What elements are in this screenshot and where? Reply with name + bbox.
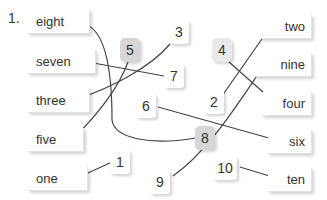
word-label: seven xyxy=(36,54,71,69)
word-label: five xyxy=(36,132,56,147)
word-card-three[interactable]: three xyxy=(28,89,90,113)
number-box-1[interactable]: 1 xyxy=(110,150,130,174)
word-card-ten[interactable]: ten xyxy=(268,168,312,192)
word-label: one xyxy=(36,171,58,186)
line-seven-7 xyxy=(88,62,164,76)
word-label: three xyxy=(36,93,66,108)
number-box-7[interactable]: 7 xyxy=(164,64,184,88)
word-card-one[interactable]: one xyxy=(28,167,88,191)
word-label: two xyxy=(285,19,305,34)
number-box-5[interactable]: 5 xyxy=(120,38,140,62)
word-card-six[interactable]: six xyxy=(268,130,312,154)
word-card-seven[interactable]: seven xyxy=(28,50,96,74)
word-card-four[interactable]: four xyxy=(262,92,312,116)
number-box-3[interactable]: 3 xyxy=(169,20,189,44)
word-card-eight[interactable]: eight xyxy=(28,10,90,34)
number-box-9[interactable]: 9 xyxy=(150,170,170,194)
number-box-2[interactable]: 2 xyxy=(204,90,224,114)
number-box-8[interactable]: 8 xyxy=(195,126,215,150)
number-box-4[interactable]: 4 xyxy=(212,38,232,62)
word-label: eight xyxy=(36,14,64,29)
word-card-two[interactable]: two xyxy=(260,15,312,39)
word-label: ten xyxy=(287,172,305,187)
word-label: four xyxy=(283,96,305,111)
number-box-10[interactable]: 10 xyxy=(213,156,237,180)
word-card-five[interactable]: five xyxy=(28,128,84,152)
word-label: six xyxy=(289,134,305,149)
word-card-nine[interactable]: nine xyxy=(255,53,312,77)
number-box-6[interactable]: 6 xyxy=(136,94,156,118)
word-label: nine xyxy=(280,57,305,72)
